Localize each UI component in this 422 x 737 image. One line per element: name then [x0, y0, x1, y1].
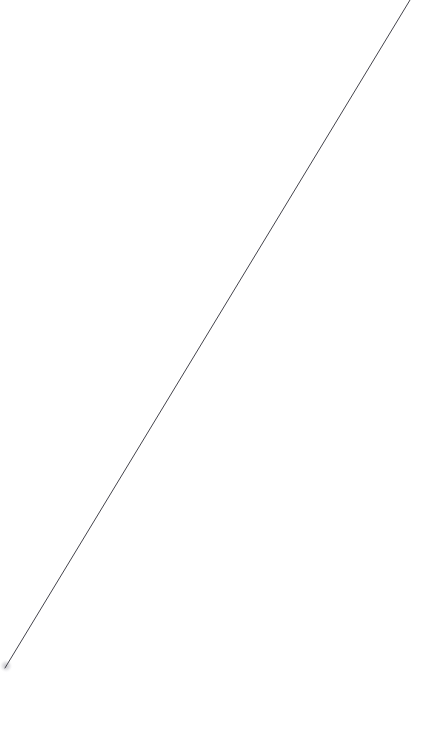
figure-background: [0, 0, 422, 737]
diagonal-line-figure: [0, 0, 422, 737]
page-canvas: [0, 0, 422, 737]
